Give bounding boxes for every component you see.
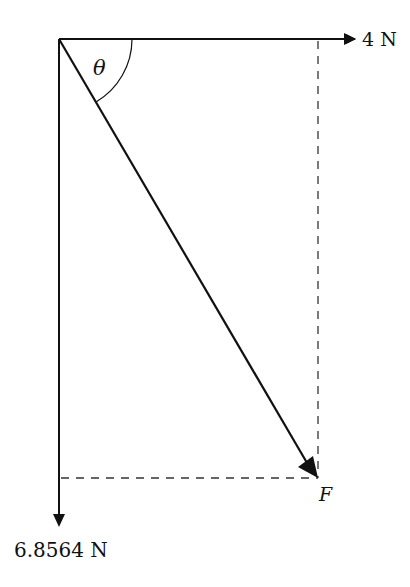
force-diagram-canvas [0,0,410,587]
horizontal-arrowhead-icon [344,33,356,45]
vertical-force-label: 6.8564 N [14,538,108,562]
angle-theta-label: θ [93,56,106,80]
resultant-force-label: F [319,483,332,505]
resultant-arrowhead-icon [298,456,318,478]
vertical-arrowhead-icon [53,514,65,527]
resultant-force-vector [59,39,310,468]
horizontal-force-label: 4 N [362,28,397,50]
